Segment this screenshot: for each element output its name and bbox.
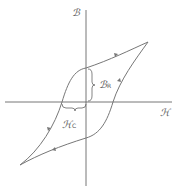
coercivity-brace <box>62 104 86 111</box>
remanence-symbol: ℬ <box>99 79 107 90</box>
hysteresis-diagram: ℬ ℋ ℬR ℋC <box>0 0 180 193</box>
arrow-lower-left-icon <box>52 147 56 151</box>
remanence-subscript: R <box>107 82 111 89</box>
coercivity-subscript: C <box>72 122 76 129</box>
coercivity-label: ℋC <box>62 120 76 130</box>
b-axis-label: ℬ <box>72 8 80 18</box>
arrow-lower-right-icon <box>117 78 121 82</box>
coercivity-symbol: ℋ <box>62 119 72 130</box>
remanence-label: ℬR <box>99 80 111 90</box>
h-axis-label: ℋ <box>160 108 170 118</box>
loop-upper-branch <box>20 42 148 165</box>
diagram-graphics <box>0 0 180 193</box>
remanence-brace <box>88 69 95 101</box>
